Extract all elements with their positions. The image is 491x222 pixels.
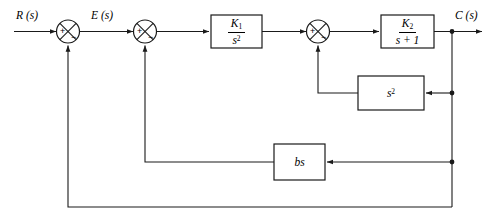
block-bs-label: bs <box>274 144 325 180</box>
sum2-minus-sign: − <box>148 33 153 42</box>
takeoff-dot-output <box>450 29 455 34</box>
sum3-minus-sign: − <box>321 33 326 42</box>
sum1-plus-sign: + <box>60 27 65 36</box>
block-s2-label: s2 <box>358 76 424 110</box>
sum2-plus-sign: + <box>137 27 142 36</box>
block-k1-numerator: K1 <box>228 17 245 33</box>
error-signal-label: E (s) <box>91 10 113 22</box>
block-k2-denominator: s + 1 <box>393 33 423 46</box>
block-k2-label: K2 s + 1 <box>381 15 434 48</box>
block-k2-numerator: K2 <box>399 17 416 33</box>
block-s2-expression: s2 <box>387 87 395 99</box>
block-diagram-figure: R (s) E (s) C (s) + − + − + − K1 s2 K2 s… <box>0 0 491 222</box>
block-k1-denominator: s2 <box>229 33 243 46</box>
block-k1-label: K1 s2 <box>211 15 262 48</box>
wire-outer-feedback-to-sum1 <box>68 46 452 208</box>
wire-block-bs-to-sum2 <box>145 46 274 163</box>
sum1-minus-sign: − <box>71 33 76 42</box>
input-signal-label: R (s) <box>16 10 38 22</box>
sum3-plus-sign: + <box>310 27 315 36</box>
wire-block-s2-to-sum3 <box>318 46 358 94</box>
output-signal-label: C (s) <box>455 10 478 22</box>
